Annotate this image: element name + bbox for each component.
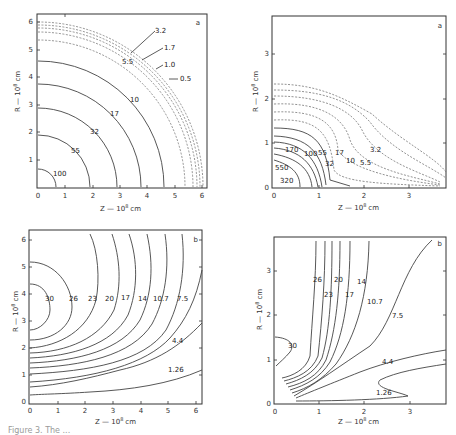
panel-bottom-right: 0 1 2 3 0 1 2 3 26 20 14: [254, 237, 446, 426]
svg-text:23: 23: [324, 291, 333, 299]
x-tick-label: 5: [173, 192, 177, 200]
svg-text:1: 1: [317, 192, 321, 200]
svg-text:1: 1: [22, 371, 26, 379]
contour-lines: [38, 22, 203, 187]
svg-text:3.2: 3.2: [155, 27, 166, 35]
svg-text:26: 26: [313, 276, 322, 284]
svg-text:3: 3: [111, 407, 115, 415]
svg-text:5: 5: [166, 407, 170, 415]
x-axis-label: Z — 108cm: [338, 202, 379, 212]
svg-text:4.4: 4.4: [382, 358, 394, 366]
plot-frame: [37, 14, 207, 188]
contour-labels: 100 55 32 17 10 5.5 3.2 1.7 1.0 0.5: [53, 27, 191, 178]
svg-text:1: 1: [317, 408, 321, 416]
svg-text:4: 4: [22, 290, 27, 298]
y-axis-label: R — 108cm: [10, 291, 20, 332]
svg-text:20: 20: [105, 295, 114, 303]
svg-text:2: 2: [83, 407, 87, 415]
svg-text:3: 3: [22, 317, 26, 325]
svg-text:550: 550: [275, 164, 288, 172]
y-axis-label: R — 108cm: [250, 71, 260, 112]
svg-text:10: 10: [346, 157, 355, 165]
x-axis-label: Z — 108cm: [95, 416, 136, 426]
svg-text:3: 3: [265, 50, 269, 58]
x-tick-label: 4: [145, 192, 150, 200]
svg-text:100: 100: [53, 170, 66, 178]
y-axis-label: R — 108cm: [12, 71, 22, 112]
svg-text:320: 320: [280, 177, 293, 185]
svg-text:14: 14: [357, 278, 366, 286]
panel-letter: a: [438, 22, 442, 30]
x-tick-label: 1: [63, 192, 67, 200]
svg-text:1: 1: [265, 139, 269, 147]
x-axis-ticks: 0 1 2 3 4 5 6: [28, 401, 199, 415]
svg-text:0: 0: [273, 408, 277, 416]
svg-text:17: 17: [110, 110, 119, 118]
svg-text:17: 17: [335, 149, 344, 157]
svg-text:170: 170: [285, 146, 298, 154]
svg-text:5: 5: [22, 263, 26, 271]
svg-text:17: 17: [121, 294, 130, 302]
y-tick-label: 5: [29, 46, 33, 54]
contour-labels: 26 20 14 23 17 10.7 7.5 30 4.4 1.26: [288, 276, 403, 397]
contour-lines: [275, 240, 446, 401]
svg-text:6: 6: [22, 236, 27, 244]
svg-text:0: 0: [265, 184, 269, 192]
svg-text:55: 55: [318, 149, 327, 157]
x-tick-label: 3: [118, 192, 122, 200]
y-axis-ticks: 0 1 2 3: [267, 267, 446, 408]
svg-text:30: 30: [45, 295, 54, 303]
svg-text:3: 3: [407, 192, 411, 200]
panel-top-left: 0 1 2 3 4 5 6 1 2 3 4 5 6: [12, 14, 207, 213]
svg-text:4: 4: [139, 407, 144, 415]
figure-caption: Figure 3. The ...: [8, 426, 70, 435]
y-tick-label: 2: [29, 128, 33, 136]
svg-text:2: 2: [267, 311, 271, 319]
svg-text:4.4: 4.4: [172, 337, 184, 345]
svg-text:10.7: 10.7: [153, 295, 169, 303]
svg-text:1: 1: [267, 356, 271, 364]
svg-text:1.7: 1.7: [164, 44, 175, 52]
y-axis-ticks: 0 1 2 3: [265, 50, 446, 192]
svg-text:5.5: 5.5: [360, 159, 371, 167]
svg-text:3.2: 3.2: [370, 146, 381, 154]
x-tick-label: 2: [91, 192, 95, 200]
x-tick-label: 6: [200, 192, 205, 200]
x-axis-ticks: 0 1 2 3: [273, 401, 412, 416]
svg-text:3: 3: [267, 267, 271, 275]
svg-text:100: 100: [304, 150, 317, 158]
svg-text:1: 1: [56, 407, 60, 415]
svg-text:2: 2: [22, 344, 26, 352]
svg-text:6: 6: [194, 407, 199, 415]
svg-text:3: 3: [408, 408, 412, 416]
svg-text:1.0: 1.0: [164, 61, 175, 69]
svg-text:20: 20: [334, 276, 343, 284]
svg-text:7.5: 7.5: [177, 295, 188, 303]
svg-text:0: 0: [267, 400, 271, 408]
svg-text:14: 14: [138, 295, 147, 303]
svg-text:10.7: 10.7: [367, 298, 383, 306]
y-tick-label: 6: [29, 18, 34, 26]
contour-labels: 170 100 55 17 32 10 5.5 3.2 550 320: [275, 146, 381, 185]
x-axis-label: Z — 108cm: [338, 416, 379, 426]
y-tick-label: 4: [29, 73, 34, 81]
svg-text:26: 26: [69, 295, 78, 303]
svg-text:30: 30: [288, 342, 297, 350]
panel-letter: a: [196, 19, 200, 27]
svg-text:10: 10: [130, 96, 139, 104]
svg-text:1.26: 1.26: [376, 389, 392, 397]
svg-text:0: 0: [272, 192, 276, 200]
svg-text:2: 2: [362, 192, 366, 200]
svg-text:32: 32: [90, 128, 99, 136]
x-axis-label: Z — 108cm: [100, 203, 141, 213]
svg-text:0: 0: [22, 398, 26, 406]
svg-text:23: 23: [88, 295, 97, 303]
svg-text:2: 2: [362, 408, 366, 416]
svg-text:2: 2: [265, 95, 269, 103]
x-tick-label: 0: [36, 192, 40, 200]
panel-letter: b: [438, 240, 443, 248]
svg-text:7.5: 7.5: [392, 312, 403, 320]
y-tick-label: 3: [29, 101, 33, 109]
svg-text:1.26: 1.26: [168, 366, 184, 374]
